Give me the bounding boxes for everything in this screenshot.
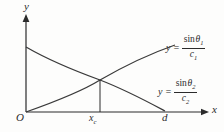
sin-theta-2-over-c2-curve [26,47,165,111]
curve-label-1-c-sub: 1 [194,54,197,61]
curve-label-1-lhs: y = [166,43,180,53]
curve-label-1-denominator: c1 [188,49,199,62]
curve-label-2-numerator: sin θ2 [174,79,198,92]
origin-label: O [16,112,24,123]
curve-label-2-sin: sin [176,78,187,88]
x-c-tick-label-sub: c [93,118,96,125]
curve-label-2-theta-sub: 2 [192,83,195,90]
y-axis-label: y [24,1,29,12]
curve-label-2-denominator: c2 [180,93,191,106]
figure-container: y x O xc d y = sin θ1 c1 y = sin θ2 c2 [0,0,224,132]
curve-label-2-c-sub: 2 [186,98,189,105]
x-axis-arrowhead [201,109,209,115]
x-axis-label: x [212,104,217,115]
curve-label-2-lhs: y = [158,87,172,97]
curve-label-2-fraction: sin θ2 c2 [174,79,198,105]
curve-label-1-numerator: sin θ1 [182,35,206,48]
plot-canvas [0,0,224,132]
y-axis-arrowhead [23,14,30,22]
curve-label-1-fraction: sin θ1 c1 [182,35,206,61]
x-c-tick-label: xc [89,113,96,126]
curve-label-1-sin: sin [184,34,195,44]
curve-label-sin-theta-2: y = sin θ2 c2 [158,79,197,105]
curve-label-1-theta-sub: 1 [200,39,203,46]
d-tick-label: d [162,112,168,123]
curve-label-sin-theta-1: y = sin θ1 c1 [166,35,205,61]
